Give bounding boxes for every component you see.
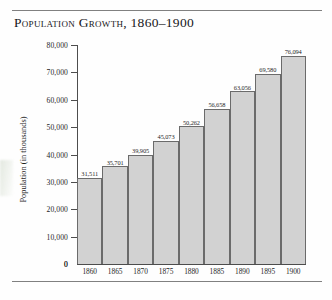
bar: 56,658: [204, 109, 229, 264]
bar-value-label: 31,511: [81, 170, 98, 177]
y-axis-tick-label: 40,000: [47, 150, 68, 159]
x-axis-tick-label: 1900: [281, 267, 306, 276]
bar-value-label: 50,262: [183, 119, 200, 126]
y-axis-tick-label: 10,000: [47, 232, 68, 241]
bar-slot: 39,905: [128, 45, 153, 264]
bar: 69,580: [255, 74, 280, 264]
y-axis-label: Population (in thousands): [19, 90, 28, 230]
bar-value-label: 45,073: [158, 133, 175, 140]
x-axis-tick-label: 1865: [102, 267, 127, 276]
bar: 35,701: [102, 166, 127, 264]
chart-plot-area: Population (in thousands) 010,00020,0003…: [0, 0, 332, 300]
bar-slot: 56,658: [204, 45, 229, 264]
x-axis-line: [77, 264, 306, 265]
y-axis-tick-label: 20,000: [47, 205, 68, 214]
x-axis-tick-labels: 186018651870187518801885189018951900: [77, 267, 306, 276]
bar-value-label: 76,094: [285, 48, 302, 55]
x-axis-tick-label: 1870: [128, 267, 153, 276]
bar-slot: 31,511: [77, 45, 102, 264]
x-axis-tick-label: 1875: [153, 267, 178, 276]
figure-page: Population Growth, 1860–1900 Population …: [0, 0, 332, 300]
y-axis-tick-label: 50,000: [47, 123, 68, 132]
bar-value-label: 39,905: [132, 147, 149, 154]
y-axis-tick-label: 80,000: [47, 41, 68, 50]
bar: 45,073: [153, 141, 178, 264]
bar: 31,511: [77, 178, 102, 264]
y-axis-tick-label: 30,000: [47, 177, 68, 186]
x-axis-tick-label: 1895: [255, 267, 280, 276]
bar-value-label: 69,580: [259, 66, 276, 73]
bar-series: 31,51135,70139,90545,07350,26256,65863,0…: [77, 45, 306, 264]
bar-slot: 50,262: [179, 45, 204, 264]
x-axis-tick-label: 1890: [230, 267, 255, 276]
bar-slot: 35,701: [102, 45, 127, 264]
x-axis-tick-label: 1885: [204, 267, 229, 276]
x-axis-tick-label: 1860: [77, 267, 102, 276]
y-axis-zero-label: 0: [64, 260, 68, 269]
bar-slot: 63,056: [230, 45, 255, 264]
bar-slot: 76,094: [281, 45, 306, 264]
y-axis-tick-label: 60,000: [47, 95, 68, 104]
bar-slot: 69,580: [255, 45, 280, 264]
bar-slot: 45,073: [153, 45, 178, 264]
x-axis-tick-label: 1880: [179, 267, 204, 276]
bar-value-label: 35,701: [107, 159, 124, 166]
bar-value-label: 56,658: [208, 101, 225, 108]
bar: 50,262: [179, 126, 204, 264]
bar: 39,905: [128, 155, 153, 264]
y-axis-tick-label: 70,000: [47, 68, 68, 77]
bottom-divider-rule: [12, 281, 322, 282]
bar: 76,094: [281, 56, 306, 264]
bar-value-label: 63,056: [234, 84, 251, 91]
bar: 63,056: [230, 91, 255, 264]
